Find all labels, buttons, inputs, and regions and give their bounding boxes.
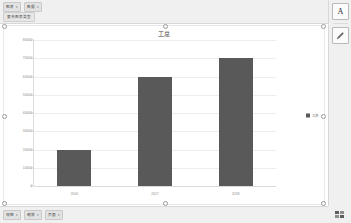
- resize-handle-w[interactable]: [2, 114, 7, 119]
- legend-label: 工资: [312, 113, 318, 118]
- y-axis-label: 50000: [23, 93, 32, 97]
- page-dropdown-label: 页面: [48, 211, 56, 219]
- y-axis-label: 30000: [23, 129, 32, 133]
- x-axis-label: 2018: [195, 192, 276, 196]
- toolbar-row-secondary: 更改图表类型: [3, 12, 325, 21]
- resize-handle-e[interactable]: [321, 114, 326, 119]
- spreadsheet-chart-window: 图表 ▾ 数据 ▾ 更改图表类型 A: [0, 0, 351, 223]
- y-axis-label: 0: [30, 184, 32, 188]
- x-axis-label: 2017: [115, 192, 196, 196]
- text-format-button[interactable]: A: [332, 3, 349, 20]
- bar[interactable]: [219, 58, 253, 186]
- pencil-icon: [336, 31, 345, 40]
- resize-handle-n[interactable]: [163, 24, 168, 29]
- y-axis-label: 60000: [23, 75, 32, 79]
- chevron-down-icon: ▾: [37, 3, 39, 11]
- gridline: [34, 186, 276, 187]
- x-axis-labels: 201620172018: [34, 192, 276, 196]
- y-axis-label: 10000: [23, 166, 32, 170]
- grid-view-icon: [335, 211, 344, 218]
- bar[interactable]: [57, 150, 91, 187]
- y-axis-label: 80000: [23, 38, 32, 42]
- zoom-dropdown[interactable]: 缩放 ▾: [24, 210, 42, 220]
- y-axis-label: 70000: [23, 56, 32, 60]
- resize-handle-nw[interactable]: [2, 24, 7, 29]
- chevron-down-icon: ▾: [16, 211, 18, 219]
- sheet-area: 工总 0100002000030000400005000060000700008…: [0, 24, 328, 206]
- chart-plot-area: 0100002000030000400005000060000700008000…: [34, 40, 276, 186]
- chevron-down-icon: ▾: [58, 211, 60, 219]
- bar-series: [34, 40, 276, 186]
- view-dropdown[interactable]: 视图 ▾: [3, 210, 21, 220]
- chevron-down-icon: ▾: [16, 3, 18, 11]
- bar[interactable]: [138, 77, 172, 187]
- chart-type-dropdown[interactable]: 图表 ▾: [3, 2, 21, 12]
- bar-cell: [115, 40, 196, 186]
- view-dropdown-label: 视图: [6, 211, 14, 219]
- chart-data-dropdown[interactable]: 数据 ▾: [24, 2, 42, 12]
- grid-view-button[interactable]: [328, 206, 351, 223]
- rail-divider: [333, 23, 348, 24]
- chart-data-dropdown-label: 数据: [27, 3, 35, 11]
- x-axis-label: 2016: [34, 192, 115, 196]
- bar-cell: [195, 40, 276, 186]
- legend-swatch: [306, 113, 310, 117]
- bar-cell: [34, 40, 115, 186]
- toolbar-row-primary: 图表 ▾ 数据 ▾: [3, 2, 325, 11]
- zoom-dropdown-label: 缩放: [27, 211, 35, 219]
- chart-legend: 工资: [306, 113, 318, 118]
- right-tool-rail: A: [328, 0, 351, 223]
- chart-object[interactable]: 工总 0100002000030000400005000060000700008…: [3, 25, 325, 205]
- chevron-down-icon: ▾: [37, 211, 39, 219]
- change-chart-type-button[interactable]: 更改图表类型: [3, 12, 35, 22]
- y-axis-label: 20000: [23, 148, 32, 152]
- status-bar: 视图 ▾ 缩放 ▾ 页面 ▾: [0, 206, 328, 223]
- chart-type-dropdown-label: 图表: [6, 3, 14, 11]
- svg-text:A: A: [337, 7, 343, 16]
- resize-handle-ne[interactable]: [321, 24, 326, 29]
- chart-title: 工总: [4, 29, 324, 38]
- page-dropdown[interactable]: 页面 ▾: [45, 210, 63, 220]
- chart-toolbar: 图表 ▾ 数据 ▾ 更改图表类型: [0, 0, 328, 24]
- change-chart-type-label: 更改图表类型: [7, 13, 31, 21]
- text-format-icon: A: [336, 7, 345, 16]
- y-axis-label: 40000: [23, 111, 32, 115]
- pencil-button[interactable]: [332, 27, 349, 44]
